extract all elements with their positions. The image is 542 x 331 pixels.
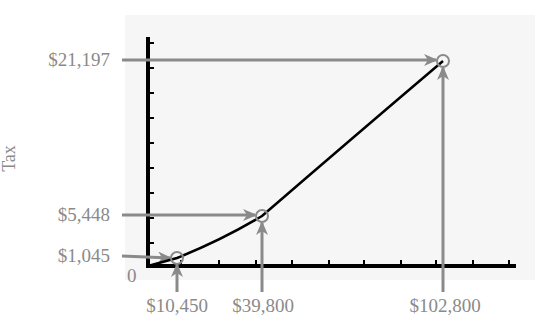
- x-label-102800: $102,800: [409, 296, 480, 315]
- y-label-1045: $1,045: [0, 246, 110, 265]
- data-points: [171, 55, 449, 264]
- y-axis-title: Tax: [0, 145, 20, 172]
- x-label-39800: $39,800: [232, 296, 294, 315]
- axes: [146, 37, 516, 268]
- tax-curve: [148, 61, 443, 266]
- y-label-21197: $21,197: [0, 50, 110, 69]
- origin-label: 0: [127, 266, 137, 285]
- y-label-5448: $5,448: [0, 205, 110, 224]
- x-label-10450: $10,450: [146, 296, 208, 315]
